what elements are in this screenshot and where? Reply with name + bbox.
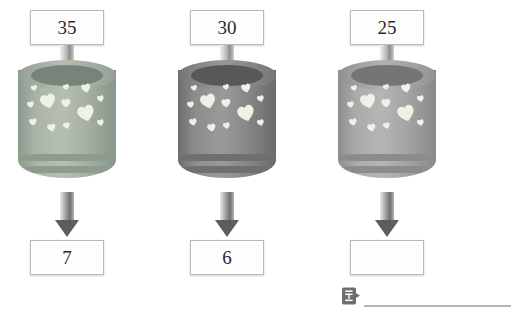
arrow-head <box>55 220 79 237</box>
heart-icon <box>61 120 72 131</box>
arrow-shaft <box>60 192 74 222</box>
machine-cylinder-3 <box>338 60 436 188</box>
input-box-1[interactable]: 35 <box>30 10 104 45</box>
heart-icon <box>381 120 392 131</box>
arrow-head <box>375 220 399 237</box>
heart-icon <box>79 81 93 95</box>
cylinder-stripe <box>338 154 436 161</box>
heart-icon <box>221 120 232 131</box>
heart-icon <box>29 83 38 92</box>
heart-icon <box>187 116 199 128</box>
heart-icon <box>221 82 230 91</box>
output-box-2[interactable]: 6 <box>190 240 264 275</box>
output-arrow-2 <box>215 192 239 238</box>
heart-icon <box>219 96 232 109</box>
output-arrow-1 <box>55 192 79 238</box>
output-box-1[interactable]: 7 <box>30 240 104 275</box>
heart-icon <box>185 99 195 109</box>
machine-cylinder-2 <box>178 60 276 188</box>
heart-icon <box>365 121 378 134</box>
heart-icon <box>255 93 266 104</box>
cylinder-stripe <box>338 166 436 173</box>
heart-icon <box>239 81 253 95</box>
output-box-3-blank[interactable] <box>350 240 424 275</box>
cylinder-stripe <box>178 154 276 161</box>
heart-icon <box>45 121 58 134</box>
heart-icon <box>189 83 198 92</box>
heart-icon <box>399 81 413 95</box>
function-machine-1: 35 <box>0 0 160 290</box>
heart-icon <box>59 96 72 109</box>
answer-input-line[interactable] <box>364 305 511 307</box>
arrow-shaft <box>380 192 394 222</box>
cylinder-stripe <box>18 154 116 161</box>
machine-cylinder-1 <box>18 60 116 188</box>
heart-icon <box>347 116 359 128</box>
cylinder-stripe <box>178 166 276 173</box>
heart-icon <box>345 99 355 109</box>
input-box-2[interactable]: 30 <box>190 10 264 45</box>
arrow-head <box>215 220 239 237</box>
heart-icon <box>95 93 106 104</box>
heart-icon <box>379 96 392 109</box>
cylinder-stripe <box>18 166 116 173</box>
heart-icon <box>61 82 70 91</box>
heart-icon <box>27 116 39 128</box>
heart-icon <box>255 117 266 128</box>
heart-icon <box>381 82 390 91</box>
arrow-shaft <box>220 192 234 222</box>
function-machine-3: 25 <box>320 0 480 290</box>
function-machine-2: 30 <box>160 0 320 290</box>
heart-icon <box>95 117 106 128</box>
heart-icon <box>415 93 426 104</box>
input-box-3[interactable]: 25 <box>350 10 424 45</box>
answer-row <box>340 286 513 314</box>
answer-tag-icon <box>340 286 362 308</box>
heart-icon <box>415 117 426 128</box>
heart-icon <box>349 83 358 92</box>
heart-icon <box>205 121 218 134</box>
heart-icon <box>25 99 35 109</box>
output-arrow-3 <box>375 192 399 238</box>
function-machine-worksheet: 35 <box>0 0 513 326</box>
